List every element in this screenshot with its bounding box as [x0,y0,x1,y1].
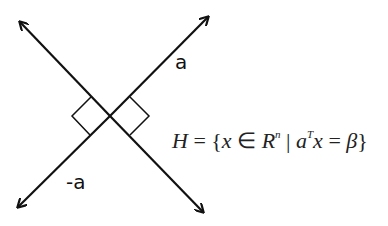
formula-var2: x [313,128,323,153]
vector-neg-a-arrow [18,116,110,207]
formula-rhs: β [346,128,357,153]
right-angle-marker-right [130,97,149,135]
formula-eq2: = [323,128,346,153]
formula-bar: | [281,128,296,153]
vector-a-label: a [175,50,187,74]
formula-space: R [262,128,275,153]
hyperplane-line [20,22,110,116]
formula-lhs: H [172,128,188,153]
formula-var: x [222,128,232,153]
hyperplane-diagram [0,0,388,226]
right-angle-marker-left [72,97,91,135]
hyperplane-formula: H = {x ∈ Rn | aTx = β} [172,128,368,154]
formula-close: } [357,128,368,153]
formula-eq: = { [188,128,222,153]
formula-coef: a [296,128,307,153]
vector-neg-a-label: -a [66,170,85,194]
vector-a-arrow [110,17,208,116]
formula-member: ∈ [232,128,262,153]
